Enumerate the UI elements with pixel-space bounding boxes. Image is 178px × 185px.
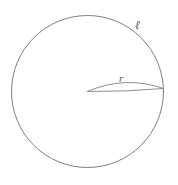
arc-length-label: ℓ <box>135 19 140 31</box>
diagram-canvas <box>0 0 178 185</box>
radius-segment <box>88 89 164 92</box>
circle-diagram-figure: ℓ r <box>0 0 178 185</box>
lens-upper-arc <box>88 82 164 91</box>
radius-label: r <box>119 73 123 84</box>
